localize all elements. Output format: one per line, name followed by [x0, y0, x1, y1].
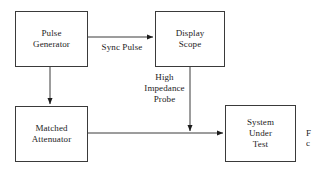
- node-pulse-generator: Pulse Generator: [15, 11, 88, 67]
- block-diagram: Pulse Generator Display Scope Matched At…: [0, 0, 312, 172]
- node-system-under-test: System Under Test: [225, 105, 296, 162]
- node-pulse-generator-label: Pulse Generator: [33, 28, 70, 50]
- node-display-scope-label: Display Scope: [176, 28, 205, 50]
- caption-fragment: F c: [306, 128, 312, 154]
- node-system-under-test-label: System Under Test: [247, 117, 274, 150]
- edge-label-high-impedance-probe: High Impedance Probe: [141, 72, 188, 105]
- edge-label-sync-pulse: Sync Pulse: [92, 42, 152, 53]
- node-display-scope: Display Scope: [155, 11, 225, 67]
- node-matched-attenuator: Matched Attenuator: [15, 106, 88, 162]
- node-matched-attenuator-label: Matched Attenuator: [32, 123, 72, 145]
